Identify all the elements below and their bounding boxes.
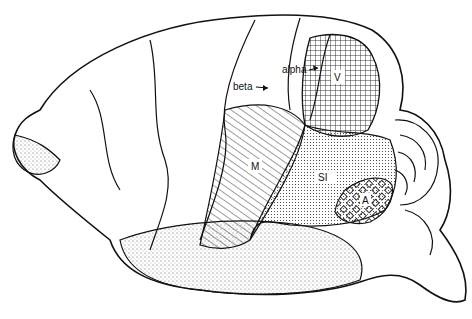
- label-M: M: [251, 161, 259, 172]
- region-V: [302, 34, 379, 136]
- brain-diagram: V M SI A alpha beta: [0, 0, 472, 319]
- label-beta: beta: [233, 81, 253, 92]
- label-A: A: [362, 195, 369, 206]
- label-alpha: alpha: [282, 64, 307, 75]
- label-SI: SI: [318, 172, 327, 183]
- label-V: V: [334, 72, 341, 83]
